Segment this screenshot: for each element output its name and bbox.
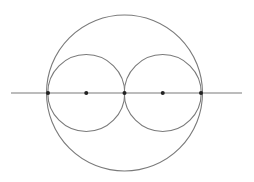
- middle-tangent-point: [123, 91, 127, 95]
- diagram-canvas: [0, 0, 254, 182]
- right-center-point: [161, 91, 165, 95]
- right-tangent-point: [199, 91, 203, 95]
- geometry-figure: [0, 0, 254, 182]
- left-tangent-point: [46, 91, 50, 95]
- left-center-point: [84, 91, 88, 95]
